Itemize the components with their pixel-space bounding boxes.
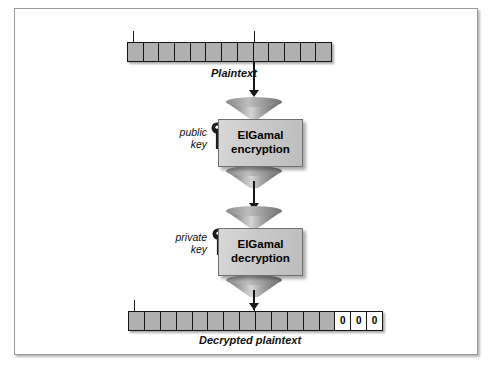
decrypted-cell [272,312,288,330]
decrypted-cell [256,312,272,330]
decryption-box-line2: decryption [231,252,290,266]
plaintext-bar [127,42,332,62]
arrowhead-into-encryption [249,90,259,97]
plaintext-cell [238,43,254,61]
elgamal-encryption-box: ElGamal encryption [218,119,303,167]
encryption-box-line2: encryption [231,143,290,157]
decrypted-cell [288,312,304,330]
figure-canvas: Plaintext [0,0,491,370]
decrypted-cell [161,312,177,330]
decrypted-cell [193,312,209,330]
figure-frame: Plaintext [14,8,478,355]
decrypted-cell [240,312,256,330]
plaintext-cell [254,43,270,61]
funnel-cone-encryption-top [226,97,282,121]
plaintext-cell [206,43,222,61]
plaintext-label: Plaintext [211,67,257,79]
plaintext-cell [222,43,238,61]
decrypted-plaintext-label: Decrypted plaintext [199,334,301,346]
plaintext-cell [175,43,191,61]
funnel-cone-decryption-top [226,206,282,230]
decrypted-cell [129,312,145,330]
decrypted-cell [145,312,161,330]
padding-cell: 0 [335,312,351,330]
padding-cell: 0 [367,312,382,330]
padding-cell: 0 [351,312,367,330]
decryption-box-line1: ElGamal [237,238,283,252]
encryption-box-line1: ElGamal [237,129,283,143]
flow-line-plaintext-to-encryption [253,62,255,92]
public-key-label: public key [165,126,207,150]
public-key-label-line1: public [165,126,207,138]
plaintext-cell [316,43,331,61]
elgamal-decryption-box: ElGamal decryption [218,228,303,276]
plaintext-cell [144,43,160,61]
plaintext-cell [285,43,301,61]
flow-line-encryption-to-decryption [253,181,255,205]
plaintext-cell [269,43,285,61]
public-key-label-line2: key [165,138,207,150]
decrypted-cell [224,312,240,330]
decrypted-cell [177,312,193,330]
decrypted-cell [208,312,224,330]
plaintext-cell [128,43,144,61]
plaintext-cell [159,43,175,61]
plaintext-cell [191,43,207,61]
private-key-label-line1: private [155,231,207,243]
private-key-label: private key [155,231,207,255]
plaintext-cell [301,43,317,61]
private-key-label-line2: key [155,243,207,255]
decrypted-cell [304,312,320,330]
decrypted-plaintext-bar: 0 0 0 [128,311,383,331]
decrypted-cell [320,312,336,330]
